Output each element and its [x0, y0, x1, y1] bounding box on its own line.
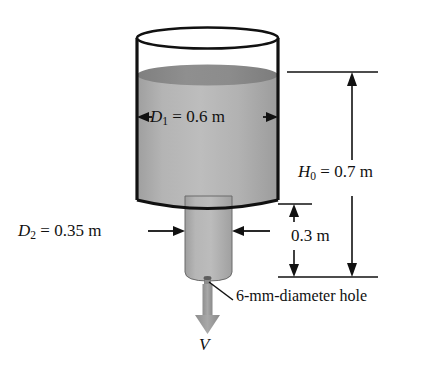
dimension-d2-arrow [148, 226, 185, 236]
tank-discharge-figure: D1 = 0.6 m D2 = 0.35 m H0 = 0.7 m 0.3 m … [0, 0, 438, 373]
h-lower-value: 0.3 [291, 226, 312, 245]
d1-subscript: 1 [162, 115, 168, 128]
water-surface-ellipse [137, 65, 278, 86]
d2-unit: m [88, 221, 101, 240]
d1-value: 0.6 [186, 107, 207, 126]
label-diameter-top: D1 = 0.6 m [150, 108, 225, 128]
water-body [137, 65, 278, 216]
hole-leader-line [209, 282, 233, 300]
d1-symbol: D [150, 107, 162, 126]
h0-unit: m [360, 162, 373, 181]
d1-equals: = [172, 107, 182, 126]
d1-unit: m [212, 107, 225, 126]
label-diameter-bottom: D2 = 0.35 m [18, 222, 101, 242]
d2-subscript: 2 [30, 229, 36, 242]
diagram-canvas [0, 0, 438, 373]
d2-symbol: D [18, 221, 30, 240]
h0-subscript: 0 [310, 170, 316, 183]
label-velocity: V [199, 336, 209, 353]
h-lower-unit: m [317, 226, 330, 245]
d2-equals: = [40, 221, 50, 240]
h0-equals: = [320, 162, 330, 181]
lower-cylinder-right-arrow [232, 226, 270, 236]
h0-value: 0.7 [334, 162, 355, 181]
velocity-arrow [195, 284, 220, 334]
label-hole-callout: 6-mm-diameter hole [236, 288, 367, 304]
label-height-lower: 0.3 m [291, 227, 330, 244]
h0-symbol: H [298, 162, 310, 181]
label-height-total: H0 = 0.7 m [298, 163, 373, 183]
d2-value: 0.35 [54, 221, 84, 240]
